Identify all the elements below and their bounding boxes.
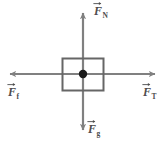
friction-force-symbol: F xyxy=(8,85,16,99)
force-diagram-canvas xyxy=(0,0,166,150)
normal-force-subscript: N xyxy=(103,11,108,20)
tension-force-label: F T xyxy=(143,86,156,98)
gravity-force-label: F g xyxy=(88,123,100,135)
gravity-force-subscript: g xyxy=(97,129,101,138)
friction-force-label: F f xyxy=(8,86,19,98)
free-body-diagram: F N F T F f F g xyxy=(0,0,166,150)
vector-symbol-gravity: F xyxy=(88,123,96,135)
gravity-force-symbol: F xyxy=(88,122,96,136)
normal-force-symbol: F xyxy=(94,4,102,18)
vector-symbol-normal: F xyxy=(94,5,102,17)
vector-symbol-friction: F xyxy=(8,86,16,98)
tension-force-subscript: T xyxy=(152,92,157,101)
vector-symbol-tension: F xyxy=(143,86,151,98)
normal-force-label: F N xyxy=(94,5,107,17)
friction-force-subscript: f xyxy=(17,92,20,101)
center-of-mass-dot xyxy=(79,70,87,78)
tension-force-symbol: F xyxy=(143,85,151,99)
